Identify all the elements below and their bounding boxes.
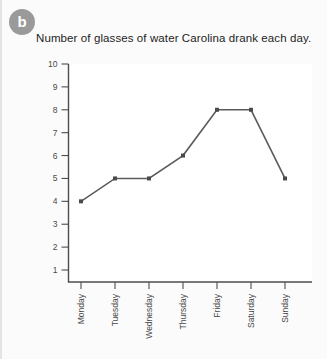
data-point — [249, 108, 253, 112]
y-axis-label: 7 — [53, 128, 58, 138]
x-axis-label: Tuesday — [110, 293, 120, 326]
y-axis-label: 6 — [53, 151, 58, 161]
y-axis-label: 3 — [53, 219, 58, 229]
x-axis-label: Wednesday — [144, 293, 154, 338]
y-axis-label: 4 — [53, 196, 58, 206]
y-axis-label: 8 — [53, 105, 58, 115]
x-axis-label: Saturday — [246, 293, 256, 328]
chart-svg: 10987654321 MondayTuesdayWednesdayThursd… — [2, 0, 327, 359]
data-point — [79, 199, 83, 203]
y-axis-label: 5 — [53, 173, 58, 183]
y-axis-ticks — [62, 64, 69, 270]
y-axis-label: 1 — [53, 265, 58, 275]
data-point — [215, 108, 219, 112]
data-point — [147, 176, 151, 180]
y-axis-label: 9 — [53, 82, 58, 92]
plot-background — [69, 64, 312, 282]
x-axis-labels: MondayTuesdayWednesdayThursdayFridaySatu… — [76, 293, 290, 338]
x-axis-label: Thursday — [178, 293, 188, 329]
data-point — [113, 176, 117, 180]
line-chart: 10987654321 MondayTuesdayWednesdayThursd… — [2, 0, 327, 359]
x-axis-label: Friday — [212, 293, 222, 317]
data-point — [181, 154, 185, 158]
chart-card: b Number of glasses of water Carolina dr… — [0, 0, 327, 359]
y-axis-labels: 10987654321 — [48, 59, 58, 275]
x-axis-ticks — [81, 282, 285, 289]
x-axis-label: Sunday — [280, 293, 290, 323]
y-axis-label: 2 — [53, 242, 58, 252]
x-axis-label: Monday — [76, 293, 86, 324]
data-point — [283, 176, 287, 180]
y-axis-label: 10 — [48, 59, 58, 69]
